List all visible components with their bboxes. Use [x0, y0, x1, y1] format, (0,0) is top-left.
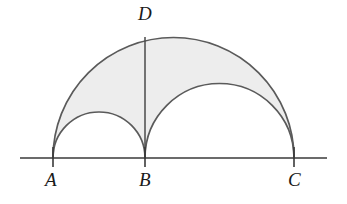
- arbelos-shaded-area: [53, 38, 294, 159]
- vertex-label-a: A: [45, 170, 57, 189]
- vertex-label-b: B: [139, 170, 151, 189]
- vertex-label-c: C: [288, 170, 301, 189]
- geometry-figure: A B C D: [0, 0, 347, 204]
- vertex-label-d: D: [138, 4, 152, 23]
